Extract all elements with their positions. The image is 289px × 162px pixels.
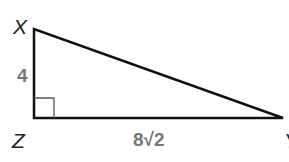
vertex-label-z: Z (12, 130, 25, 151)
side-label-zy: 8√2 (133, 130, 165, 149)
side-label-xz: 4 (17, 66, 28, 85)
vertex-label-y: Y (284, 130, 289, 151)
triangle-xzy (34, 29, 283, 118)
right-angle-marker (34, 98, 54, 118)
vertex-label-x: X (13, 16, 27, 37)
